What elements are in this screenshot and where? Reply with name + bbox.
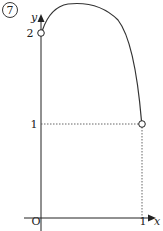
tick-label-y-1: 1 [31, 118, 38, 131]
open-point-1-1 [139, 121, 146, 128]
tick-label-x-1: 1 [140, 215, 147, 228]
origin-label: O [31, 215, 40, 228]
x-axis-label: x [154, 215, 161, 228]
y-axis-label: y [30, 11, 38, 24]
y-axis-arrow-icon [38, 14, 45, 22]
tick-label-y-2: 2 [27, 27, 34, 40]
graph: 7 y 2 1 O 1 x [0, 0, 163, 231]
problem-number: 7 [3, 3, 18, 18]
open-point-0-2 [38, 30, 45, 37]
curve [43, 4, 142, 121]
problem-number-text: 7 [7, 4, 14, 17]
